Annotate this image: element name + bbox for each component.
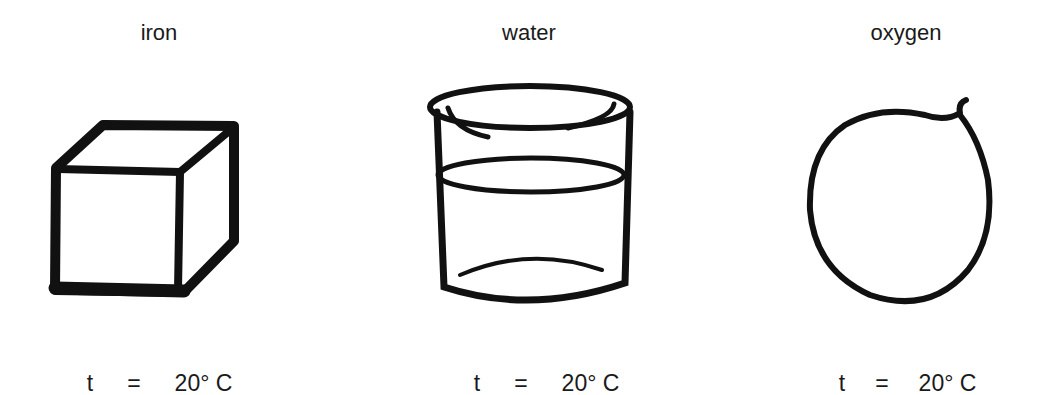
iron-temperature: t=20° C	[74, 343, 232, 395]
balloon-icon	[810, 100, 990, 301]
glass-of-water-icon	[430, 86, 630, 300]
oxygen-temperature: t=20° C	[826, 343, 976, 395]
water-temperature: t=20° C	[461, 343, 619, 395]
cube-icon	[55, 125, 234, 292]
